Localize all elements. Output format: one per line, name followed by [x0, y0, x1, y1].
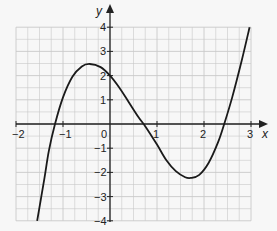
- x-tick-label: 3: [247, 128, 253, 140]
- x-tick-label: 0: [101, 128, 107, 140]
- x-tick-label: 2: [200, 128, 206, 140]
- y-tick-label: 1: [100, 94, 106, 106]
- y-axis-label: y: [95, 4, 103, 18]
- x-axis-label: x: [261, 127, 269, 141]
- y-tick-label: −4: [94, 215, 107, 227]
- y-tick-label: −1: [94, 142, 107, 154]
- y-tick-label: −2: [94, 166, 107, 178]
- y-tick-label: 4: [100, 21, 106, 33]
- x-tick-label: −1: [59, 128, 72, 140]
- cubic-graph: −2−101234321−1−2−3−4 x y: [0, 0, 277, 231]
- y-tick-label: 3: [100, 45, 106, 57]
- x-tick-label: −2: [12, 128, 25, 140]
- axes: [16, 4, 268, 222]
- y-tick-label: −3: [94, 191, 107, 203]
- y-axis-arrow-icon: [106, 4, 114, 13]
- plot-area: −2−101234321−1−2−3−4 x y: [0, 0, 277, 231]
